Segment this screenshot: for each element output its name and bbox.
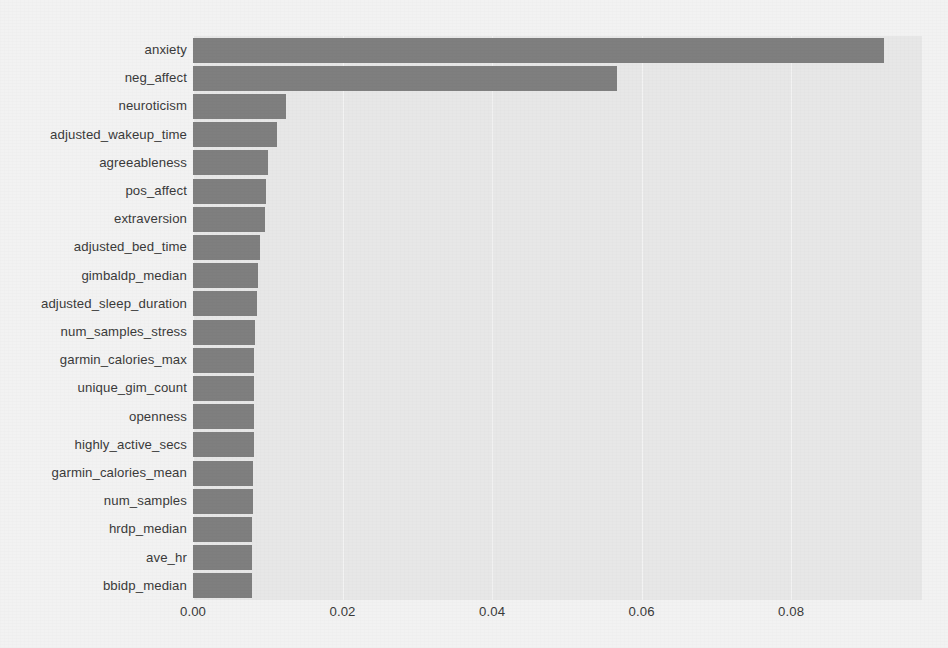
x-tick-label-4: 0.08 [778, 604, 804, 619]
bar-agreeableness [193, 150, 268, 175]
bar-row [193, 290, 922, 318]
bar-garmin_calories_mean [193, 461, 253, 486]
bar-adjusted_bed_time [193, 235, 260, 260]
bar-row [193, 403, 922, 431]
bar-row [193, 544, 922, 572]
bar-hrdp_median [193, 517, 252, 542]
y-axis-tick-labels: anxietyneg_affectneuroticismadjusted_wak… [0, 36, 187, 600]
bar-row [193, 431, 922, 459]
bar-row [193, 36, 922, 64]
y-tick-label-extraversion: extraversion [0, 205, 187, 233]
y-tick-label-neg_affect: neg_affect [0, 64, 187, 92]
bar-num_samples_stress [193, 320, 255, 345]
y-tick-label-num_samples_stress: num_samples_stress [0, 318, 187, 346]
bar-row [193, 318, 922, 346]
bar-adjusted_sleep_duration [193, 291, 257, 316]
bar-row [193, 121, 922, 149]
x-tick-label-3: 0.06 [629, 604, 655, 619]
y-tick-label-num_samples: num_samples [0, 487, 187, 515]
y-tick-label-bbidp_median: bbidp_median [0, 572, 187, 600]
bar-unique_gim_count [193, 376, 254, 401]
y-tick-label-neuroticism: neuroticism [0, 92, 187, 120]
y-tick-label-unique_gim_count: unique_gim_count [0, 374, 187, 402]
y-tick-label-openness: openness [0, 403, 187, 431]
bar-row [193, 92, 922, 120]
y-tick-label-anxiety: anxiety [0, 36, 187, 64]
bar-num_samples [193, 489, 253, 514]
bar-garmin_calories_max [193, 348, 254, 373]
y-tick-label-adjusted_wakeup_time: adjusted_wakeup_time [0, 121, 187, 149]
bar-gimbaldp_median [193, 263, 258, 288]
bar-pos_affect [193, 179, 266, 204]
bar-highly_active_secs [193, 432, 254, 457]
bar-row [193, 177, 922, 205]
bar-bbidp_median [193, 573, 252, 598]
bar-row [193, 487, 922, 515]
bar-row [193, 262, 922, 290]
y-tick-label-agreeableness: agreeableness [0, 149, 187, 177]
bar-anxiety [193, 38, 884, 63]
x-axis-tick-labels: 0.000.020.040.060.08 [0, 604, 948, 626]
bar-row [193, 233, 922, 261]
feature-importance-bar-chart: anxietyneg_affectneuroticismadjusted_wak… [0, 0, 948, 648]
y-tick-label-adjusted_bed_time: adjusted_bed_time [0, 233, 187, 261]
bar-row [193, 374, 922, 402]
bar-row [193, 149, 922, 177]
bar-row [193, 346, 922, 374]
y-tick-label-garmin_calories_mean: garmin_calories_mean [0, 459, 187, 487]
bar-extraversion [193, 207, 265, 232]
bar-adjusted_wakeup_time [193, 122, 277, 147]
y-tick-label-highly_active_secs: highly_active_secs [0, 431, 187, 459]
bar-ave_hr [193, 545, 252, 570]
y-tick-label-garmin_calories_max: garmin_calories_max [0, 346, 187, 374]
bar-row [193, 572, 922, 600]
plot-area [193, 36, 922, 600]
bar-series [193, 36, 922, 600]
y-tick-label-adjusted_sleep_duration: adjusted_sleep_duration [0, 290, 187, 318]
bar-neuroticism [193, 94, 286, 119]
bar-row [193, 64, 922, 92]
bar-openness [193, 404, 254, 429]
bar-row [193, 459, 922, 487]
x-tick-label-1: 0.02 [329, 604, 355, 619]
y-tick-label-gimbaldp_median: gimbaldp_median [0, 262, 187, 290]
y-tick-label-pos_affect: pos_affect [0, 177, 187, 205]
x-tick-label-0: 0.00 [180, 604, 206, 619]
y-tick-label-hrdp_median: hrdp_median [0, 515, 187, 543]
x-tick-label-2: 0.04 [479, 604, 505, 619]
bar-neg_affect [193, 66, 617, 91]
y-tick-label-ave_hr: ave_hr [0, 544, 187, 572]
bar-row [193, 515, 922, 543]
bar-row [193, 205, 922, 233]
